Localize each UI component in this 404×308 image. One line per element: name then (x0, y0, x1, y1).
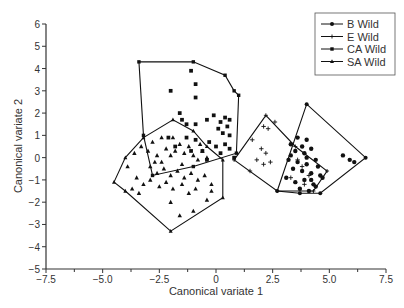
plus-marker-icon (268, 160, 272, 164)
square-marker-icon (173, 145, 177, 149)
legend-label: B Wild (347, 18, 379, 30)
plus-marker-icon (255, 158, 259, 162)
square-marker-icon (223, 142, 227, 146)
circle-marker-icon (300, 144, 304, 148)
plus-marker-icon (261, 124, 265, 128)
square-marker-icon (219, 151, 223, 155)
circle-marker-icon (316, 164, 320, 168)
square-marker-icon (223, 116, 227, 120)
circle-marker-icon (284, 175, 288, 179)
square-marker-icon (185, 122, 189, 126)
circle-marker-icon (293, 180, 297, 184)
circle-marker-icon (314, 158, 318, 162)
square-marker-icon (167, 136, 171, 140)
triangle-marker-icon (182, 151, 186, 155)
triangle-marker-icon (148, 164, 152, 168)
square-marker-icon (192, 60, 195, 63)
circle-marker-icon (304, 155, 308, 159)
triangle-marker-icon (205, 155, 209, 159)
x-tick-label: −7.5 (36, 274, 56, 285)
circle-marker-icon (352, 160, 356, 164)
circle-marker-icon (298, 191, 302, 195)
circle-marker-icon (293, 149, 297, 153)
triangle-marker-icon (130, 186, 134, 190)
plus-marker-icon (300, 164, 304, 168)
circle-marker-icon (309, 171, 313, 175)
triangle-marker-icon (196, 157, 200, 161)
square-marker-icon (185, 136, 189, 140)
plus-marker-icon (266, 126, 270, 130)
x-tick-label: −2.5 (149, 274, 169, 285)
y-tick-label: −3 (29, 219, 41, 230)
square-marker-icon (228, 133, 232, 137)
triangle-marker-icon (171, 186, 175, 190)
square-marker-icon (194, 82, 198, 86)
square-marker-icon (207, 140, 211, 144)
triangle-marker-icon (187, 144, 191, 148)
triangle-marker-icon (139, 144, 143, 148)
triangle-marker-icon (168, 153, 172, 157)
legend-label: E Wild (347, 31, 379, 43)
plus-marker-icon (289, 175, 293, 179)
square-marker-icon (237, 94, 240, 97)
square-marker-icon (225, 125, 229, 129)
x-tick-label: 7.5 (379, 274, 393, 285)
square-marker-icon (178, 111, 182, 115)
legend-label: SA Wild (347, 56, 386, 68)
circle-marker-icon (302, 151, 306, 155)
triangle-marker-icon (150, 140, 154, 144)
triangle-marker-icon (168, 200, 172, 204)
circle-marker-icon (305, 102, 309, 106)
triangle-marker-icon (171, 135, 175, 139)
circle-marker-icon (291, 167, 295, 171)
triangle-marker-icon (180, 182, 184, 186)
circle-marker-icon (309, 147, 313, 151)
circle-marker-icon (314, 184, 318, 188)
square-marker-icon (232, 156, 236, 160)
triangle-marker-icon (196, 177, 200, 181)
legend: B WildE WildCA WildSA Wild (315, 13, 395, 75)
y-tick-label: −1 (29, 175, 41, 186)
circle-marker-icon (364, 156, 368, 160)
legend-label: CA Wild (347, 43, 386, 55)
triangle-marker-icon (157, 184, 161, 188)
triangle-marker-icon (159, 135, 163, 139)
triangle-marker-icon (112, 180, 116, 184)
triangle-marker-icon (125, 164, 129, 168)
square-marker-icon (232, 89, 235, 92)
plus-marker-icon (264, 151, 268, 155)
triangle-marker-icon (221, 196, 225, 200)
triangle-marker-icon (178, 213, 182, 217)
triangle-marker-icon (148, 177, 152, 181)
square-marker-icon (228, 118, 232, 122)
x-axis-label: Canonical variate 1 (169, 285, 263, 297)
square-marker-icon (194, 138, 198, 142)
circle-marker-icon (298, 187, 302, 191)
y-tick-label: 1 (34, 130, 40, 141)
square-marker-icon (216, 127, 220, 131)
square-marker-icon (205, 118, 209, 122)
triangle-marker-icon (189, 171, 193, 175)
circle-marker-icon (295, 135, 299, 139)
triangle-marker-icon (173, 149, 177, 153)
triangle-marker-icon (155, 153, 159, 157)
square-marker-icon (221, 131, 225, 135)
triangle-marker-icon (132, 151, 136, 155)
square-marker-icon (189, 69, 193, 73)
y-tick-label: 5 (34, 41, 40, 52)
triangle-marker-icon (155, 171, 159, 175)
triangle-marker-icon (193, 186, 197, 190)
circle-marker-icon (320, 175, 324, 179)
plus-marker-icon (259, 147, 263, 151)
square-marker-icon (194, 96, 198, 100)
square-marker-icon (169, 89, 173, 93)
square-marker-icon (219, 120, 223, 124)
triangle-marker-icon (187, 191, 191, 195)
plus-marker-icon (302, 182, 306, 186)
triangle-marker-icon (134, 175, 138, 179)
y-tick-label: 0 (34, 153, 40, 164)
triangle-marker-icon (209, 182, 213, 186)
triangle-marker-icon (164, 146, 168, 150)
y-tick-label: 4 (34, 64, 40, 75)
square-marker-icon (151, 174, 154, 177)
